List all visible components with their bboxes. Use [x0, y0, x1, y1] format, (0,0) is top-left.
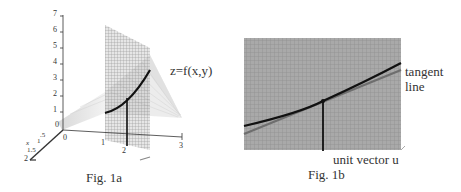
- x-tick-2: 2: [24, 154, 28, 163]
- figure-1b: tangent line unit vector u Fig. 1b: [230, 0, 461, 192]
- x-tick-15: 1.5: [27, 146, 36, 154]
- tangent-label-line2: line: [405, 79, 425, 95]
- x-axis-label: x: [26, 139, 29, 147]
- y-tick-0: 0: [63, 133, 67, 142]
- z-tick-6: 6: [53, 25, 57, 34]
- tangent-point: [321, 99, 325, 103]
- z-tick-3: 3: [53, 73, 57, 82]
- figure-caption: Fig. 1a: [86, 170, 122, 186]
- fig1a-plot: [0, 0, 230, 192]
- z-tick-2: 2: [53, 89, 57, 98]
- y-tick-1: 1: [101, 138, 105, 147]
- z-tick-1: 1: [53, 105, 57, 114]
- unit-vector-label: unit vector u: [333, 152, 399, 168]
- z-tick-4: 4: [53, 57, 57, 66]
- x-tick-1: 1: [37, 137, 41, 145]
- surface-sheet: [58, 92, 105, 130]
- y-tick-2: 2: [122, 146, 126, 155]
- figure-caption: Fig. 1b: [308, 167, 345, 183]
- y-tick-3: 3: [179, 141, 183, 150]
- z-tick-0: 0: [55, 120, 59, 129]
- tangent-label-line1: tangent: [405, 64, 443, 80]
- x-axis: [30, 130, 63, 160]
- z-tick-5: 5: [53, 41, 57, 50]
- figure-1a: 7 6 5 4 3 2 1 0 0 1 2 3 .5 1 1.5 2 x z=f…: [0, 0, 230, 192]
- surface-label: z=f(x,y): [170, 63, 212, 79]
- z-tick-7: 7: [53, 9, 57, 18]
